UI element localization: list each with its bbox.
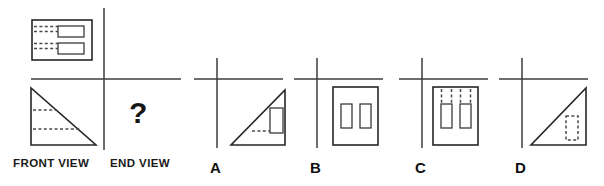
option-a-triangle xyxy=(231,90,285,145)
front-view-triangle xyxy=(31,88,96,145)
option-c[interactable]: C xyxy=(399,58,488,176)
option-b-label: B xyxy=(310,159,321,176)
front-view-label: FRONT VIEW xyxy=(13,157,89,169)
option-b[interactable]: B xyxy=(294,58,383,176)
figure-sheet: ? FRONT VIEW END VIEW A xyxy=(0,0,604,186)
option-d[interactable]: D xyxy=(499,58,588,176)
option-a-label: A xyxy=(210,159,221,176)
option-c-label: C xyxy=(415,159,426,176)
front-view xyxy=(31,88,96,145)
option-c-inner-rectangle-right xyxy=(460,104,471,128)
option-d-hidden-rectangle xyxy=(566,116,578,140)
plan-view xyxy=(32,20,92,60)
plan-inner-rectangle-top xyxy=(58,26,84,37)
projection-axes-given xyxy=(31,8,181,150)
orthographic-projection-figure: ? FRONT VIEW END VIEW A xyxy=(0,0,604,186)
end-view-label: END VIEW xyxy=(110,157,170,169)
option-c-inner-rectangle-left xyxy=(441,104,452,128)
option-a[interactable]: A xyxy=(194,58,285,176)
plan-inner-rectangle-bottom xyxy=(58,43,84,54)
option-b-inner-rectangle-right xyxy=(360,104,371,128)
projection-axes-d xyxy=(499,58,588,148)
given-views-group: ? FRONT VIEW END VIEW xyxy=(13,8,181,169)
projection-axes-a xyxy=(194,58,283,148)
projection-axes-b xyxy=(294,58,383,148)
option-a-inner-rectangle xyxy=(270,108,283,133)
option-b-inner-rectangle-left xyxy=(341,104,352,128)
option-d-label: D xyxy=(515,159,526,176)
projection-axes-c xyxy=(399,58,488,148)
end-view-question-mark: ? xyxy=(129,96,147,129)
